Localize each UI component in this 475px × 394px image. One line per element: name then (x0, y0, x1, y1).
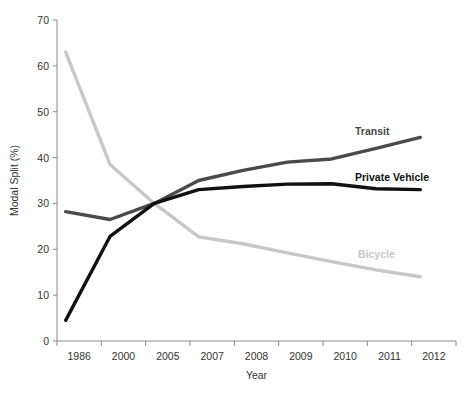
y-tick-label: 30 (37, 197, 49, 209)
x-axis-title: Year (246, 369, 268, 381)
x-tick-label: 2009 (289, 350, 313, 362)
y-tick-label: 70 (37, 14, 49, 26)
series-label-private-vehicle: Private Vehicle (355, 171, 429, 183)
series-line-bicycle (66, 52, 421, 277)
x-tick-label: 2011 (378, 350, 401, 362)
y-tick-label: 60 (37, 60, 49, 72)
y-tick-label: 20 (37, 243, 49, 255)
series-label-transit: Transit (355, 125, 390, 137)
x-tick-label: 2005 (156, 350, 180, 362)
y-tick-label: 50 (37, 106, 49, 118)
x-tick-label: 2000 (112, 350, 136, 362)
x-tick-label: 2012 (422, 350, 446, 362)
y-tick-label: 0 (43, 335, 49, 347)
x-tick-label: 2007 (200, 350, 224, 362)
x-tick-label: 1986 (67, 350, 91, 362)
y-tick-label: 10 (37, 289, 49, 301)
y-axis-title: Modal Split (%) (8, 145, 20, 216)
x-tick-label: 2010 (333, 350, 357, 362)
y-tick-label: 40 (37, 152, 49, 164)
series-label-bicycle: Bicycle (358, 248, 395, 260)
chart-canvas: 0102030405060701986200020052007200820092… (0, 0, 475, 394)
modal-split-line-chart: 0102030405060701986200020052007200820092… (0, 0, 475, 394)
x-tick-label: 2008 (245, 350, 269, 362)
